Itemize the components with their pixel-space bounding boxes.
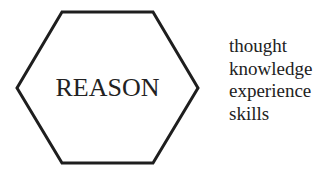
attribute-item-knowledge: knowledge: [229, 58, 312, 81]
attribute-item-experience: experience: [229, 80, 312, 103]
attribute-item-skills: skills: [229, 103, 312, 126]
hexagon-label: REASON: [17, 72, 198, 104]
attribute-list: thought knowledge experience skills: [229, 35, 312, 125]
attribute-item-thought: thought: [229, 35, 312, 58]
